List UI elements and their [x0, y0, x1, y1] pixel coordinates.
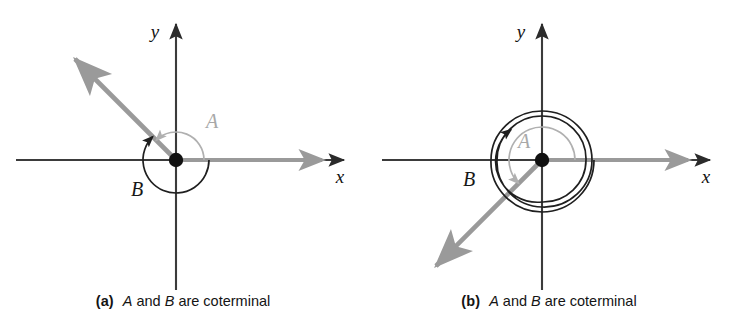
- coterminal-angles-figure: y x A B (a)A and B are coterminal: [0, 0, 732, 328]
- angle-label-a: A: [516, 130, 531, 152]
- caption-var-b: B: [531, 293, 541, 309]
- panel-a-tag: (a): [96, 293, 114, 309]
- origin-dot: [169, 153, 183, 167]
- y-axis-label: y: [149, 21, 160, 42]
- panel-b: y x A B (b)A and B are coterminal: [366, 0, 732, 328]
- terminal-side-ray: [75, 59, 176, 160]
- panel-b-tag: (b): [461, 293, 480, 309]
- angle-label-b: B: [463, 168, 475, 190]
- terminal-side-ray: [436, 160, 542, 266]
- panel-a-caption: (a)A and B are coterminal: [0, 292, 366, 310]
- origin-dot: [535, 153, 549, 167]
- caption-var-a: A: [489, 293, 499, 309]
- caption-tail: are coterminal: [541, 293, 637, 309]
- x-axis-label: x: [335, 166, 345, 187]
- panel-a-diagram: y x A B: [0, 0, 366, 290]
- angle-label-a: A: [204, 110, 219, 132]
- panel-b-caption: (b)A and B are coterminal: [366, 292, 732, 310]
- panel-b-diagram: y x A B: [366, 0, 732, 290]
- caption-conjunction: and: [132, 293, 164, 309]
- caption-tail: are coterminal: [174, 293, 270, 309]
- caption-var-b: B: [165, 293, 175, 309]
- y-axis-label: y: [515, 21, 526, 42]
- caption-var-a: A: [123, 293, 133, 309]
- panel-a: y x A B (a)A and B are coterminal: [0, 0, 366, 328]
- caption-conjunction: and: [499, 293, 531, 309]
- x-axis-label: x: [701, 166, 711, 187]
- angle-label-b: B: [131, 178, 143, 200]
